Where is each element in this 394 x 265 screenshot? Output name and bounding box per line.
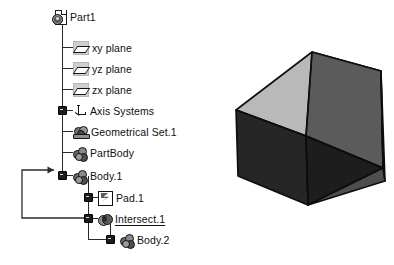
tree-node-intersect-1[interactable]: Intersect.1 xyxy=(98,211,165,227)
intersect-icon xyxy=(98,213,112,226)
tree-node-label: Axis Systems xyxy=(90,106,154,117)
tree-node-label: Intersect.1 xyxy=(115,214,165,225)
tree-node-yz-plane[interactable]: yz plane xyxy=(73,61,132,77)
tree-node-axis-systems[interactable]: Axis Systems xyxy=(74,103,154,119)
geometrical-set-icon xyxy=(73,126,88,139)
expand-handle-pad-1[interactable] xyxy=(84,193,93,202)
tree-node-xy-plane[interactable]: xy plane xyxy=(73,40,132,56)
expand-handle-intersect-1[interactable] xyxy=(84,214,93,223)
tree-branch-line xyxy=(62,47,73,48)
specification-tree[interactable]: Part1 xy plane yz plane zx plane Axis Sy… xyxy=(0,0,230,265)
tree-node-label: Part1 xyxy=(70,12,96,23)
tree-branch-line xyxy=(62,68,73,69)
tree-node-pad-1[interactable]: Pad.1 xyxy=(98,190,144,206)
tree-subtrunk-line xyxy=(88,176,89,239)
expand-handle-body-2[interactable] xyxy=(106,235,115,244)
axis-system-icon xyxy=(74,105,87,118)
part-document-icon xyxy=(52,10,67,25)
tree-node-partbody[interactable]: PartBody xyxy=(73,145,134,161)
body-icon xyxy=(73,147,87,160)
body-icon xyxy=(73,170,87,183)
tree-branch-line xyxy=(62,131,73,132)
tree-node-zx-plane[interactable]: zx plane xyxy=(73,82,132,98)
tree-branch-line xyxy=(62,89,73,90)
screenshot-root: Part1 xy plane yz plane zx plane Axis Sy… xyxy=(0,0,394,265)
plane-icon xyxy=(73,41,89,55)
tree-node-label: Geometrical Set.1 xyxy=(91,127,177,138)
body-icon xyxy=(120,234,134,247)
tree-node-label: Body.2 xyxy=(137,235,170,246)
tree-node-body-1[interactable]: Body.1 xyxy=(73,168,123,184)
tree-branch-line xyxy=(62,152,73,153)
3d-model-viewport[interactable] xyxy=(228,48,394,213)
tree-node-label: Pad.1 xyxy=(116,193,144,204)
expand-handle-axis-systems[interactable] xyxy=(58,106,67,115)
plane-icon xyxy=(73,62,89,76)
tree-node-label: Body.1 xyxy=(90,171,123,182)
plane-icon xyxy=(73,83,89,97)
tree-node-label: yz plane xyxy=(92,64,132,75)
tree-node-body-2[interactable]: Body.2 xyxy=(120,232,170,248)
tree-node-label: PartBody xyxy=(90,148,134,159)
tree-node-label: xy plane xyxy=(92,43,132,54)
expand-handle-body-1[interactable] xyxy=(58,171,67,180)
tree-node-geometrical-set-1[interactable]: Geometrical Set.1 xyxy=(73,124,177,140)
tree-node-label: zx plane xyxy=(92,85,132,96)
tree-node-part1[interactable]: Part1 xyxy=(52,9,96,25)
pad-icon xyxy=(98,191,113,206)
